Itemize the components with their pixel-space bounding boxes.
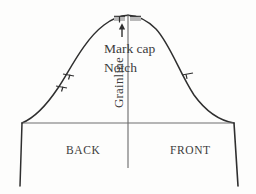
grainline-label: Grainline: [112, 57, 125, 108]
sleeve-outline-svg: [0, 0, 256, 194]
side-seam-front: [234, 123, 238, 186]
front-label: FRONT: [170, 145, 211, 157]
sleeve-pattern-diagram: Mark cap Notch Grainline BACK FRONT: [0, 0, 256, 194]
back-label: BACK: [66, 145, 100, 157]
sleeve-cap-curve-front: [128, 15, 234, 123]
cap-notch-left-group: [114, 16, 125, 22]
up-arrow-icon: [119, 23, 125, 37]
cap-notch-right-group: [130, 16, 141, 21]
mark-cap-label: Mark cap: [104, 42, 155, 56]
side-seam-back: [20, 123, 22, 186]
